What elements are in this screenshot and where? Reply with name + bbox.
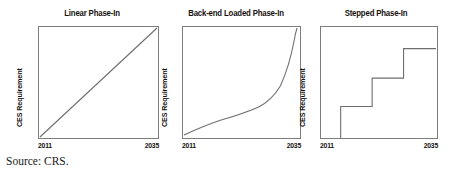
stepped-series-svg [321,27,437,138]
panel-title-backend-loaded: Back-end Loaded Phase-In [169,8,303,18]
x-tick-start-linear: 2011 [38,141,52,150]
chart-panel-stepped: Stepped Phase-In CES Requirement 2011 20… [301,0,451,156]
x-tick-end-stepped: 2035 [420,141,438,150]
plot-area-backend-loaded [182,26,301,139]
plot-area-stepped [320,26,438,139]
x-tick-end-backend-loaded: 2035 [283,141,301,150]
chart-panel-linear: Linear Phase-In CES Requirement 2011 203… [18,0,166,156]
y-axis-label-backend-loaded: CES Requirement [160,68,169,127]
linear-series-svg [39,27,158,138]
source-note: Source: CRS. [6,155,69,167]
panel-title-stepped: Stepped Phase-In [307,8,445,18]
y-axis-label-stepped: CES Requirement [298,68,307,127]
x-tick-end-linear: 2035 [141,141,159,150]
panel-title-linear: Linear Phase-In [24,8,160,18]
plot-area-linear [38,26,159,139]
figure-container: Linear Phase-In CES Requirement 2011 203… [0,0,464,174]
x-tick-start-stepped: 2011 [320,141,334,150]
chart-panel-backend-loaded: Back-end Loaded Phase-In CES Requirement… [163,0,309,156]
x-tick-start-backend-loaded: 2011 [182,141,196,150]
stepped-series-line [341,49,436,138]
linear-series-line [40,28,157,137]
backend-loaded-series-svg [183,27,300,138]
y-axis-label-linear: CES Requirement [15,68,24,127]
backend-loaded-series-curve [184,28,297,135]
